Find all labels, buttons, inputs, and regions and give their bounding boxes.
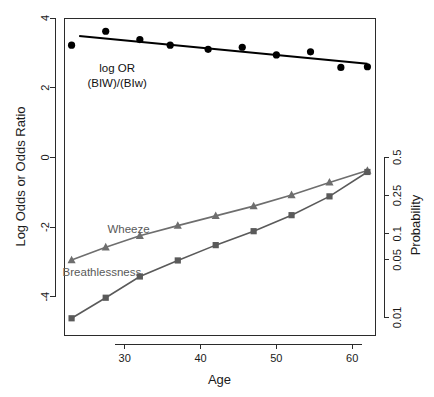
chart-figure: 30405060Age420-2-4Log Odds or Odds Ratio… xyxy=(0,0,434,397)
series-breathlessness-point xyxy=(213,242,219,248)
x-tick-label: 60 xyxy=(346,352,358,364)
y-left-axis-title: Log Odds or Odds Ratio xyxy=(13,106,28,246)
y-right-tick-label: 0.05 xyxy=(391,249,403,270)
log-or-point xyxy=(337,64,344,71)
y-left-tick-label: -4 xyxy=(39,292,51,302)
series-breathlessness-point xyxy=(364,169,370,175)
series-breathlessness-point xyxy=(68,315,74,321)
y-right-tick-label: 0.5 xyxy=(391,150,403,165)
x-tick-label: 50 xyxy=(270,352,282,364)
log-or-annotation-line1: log OR xyxy=(99,62,135,74)
breathlessness-annotation: Breathlessness xyxy=(63,266,142,278)
y-left-tick-label: -2 xyxy=(39,222,51,232)
wheeze-annotation: Wheeze xyxy=(107,223,149,235)
log-or-point xyxy=(364,63,371,70)
x-axis-title: Age xyxy=(208,372,231,387)
log-or-point xyxy=(167,42,174,49)
series-wheeze xyxy=(68,166,372,263)
series-breathlessness-point xyxy=(103,295,109,301)
y-right-tick-label: 0.01 xyxy=(391,307,403,328)
log-or-annotation-line2: (BIW)/(BIw) xyxy=(87,77,147,89)
y-right-tick-label: 0.1 xyxy=(391,226,403,241)
log-or-point xyxy=(239,44,246,51)
series-wheeze-line xyxy=(72,171,368,261)
y-right-tick-label: 0.25 xyxy=(391,185,403,206)
y-left-tick-label: 2 xyxy=(39,85,51,91)
log-or-point xyxy=(136,36,143,43)
series-breathlessness-point xyxy=(251,228,257,234)
series-breathlessness-line xyxy=(72,172,368,318)
log-or-point xyxy=(68,42,75,49)
y-right-axis-title: Probability xyxy=(408,194,423,255)
x-tick-label: 40 xyxy=(194,352,206,364)
series-breathlessness-point xyxy=(288,212,294,218)
log-or-point xyxy=(205,46,212,53)
log-or-fit-line xyxy=(79,36,367,64)
y-left-tick-label: 0 xyxy=(39,154,51,160)
axes-group: 30405060Age420-2-4Log Odds or Odds Ratio… xyxy=(13,15,423,387)
y-left-tick-label: 4 xyxy=(39,15,51,21)
x-tick-label: 30 xyxy=(119,352,131,364)
chart-plot-area: 30405060Age420-2-4Log Odds or Odds Ratio… xyxy=(0,0,434,397)
log-or-point xyxy=(102,28,109,35)
series-breathlessness-point xyxy=(326,193,332,199)
log-or-point xyxy=(273,51,280,58)
log-or-point xyxy=(307,48,314,55)
series-breathlessness-point xyxy=(175,257,181,263)
